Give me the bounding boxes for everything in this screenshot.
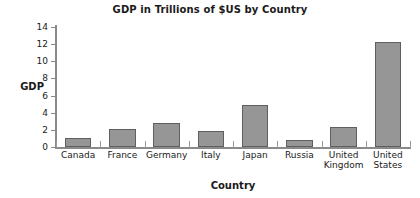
x-axis-tick <box>145 141 146 148</box>
y-axis-tick <box>51 130 57 131</box>
y-axis-tick-label: 2 <box>26 125 48 135</box>
x-axis-tick <box>100 141 101 148</box>
x-axis-tick <box>56 141 57 148</box>
bar-united-states <box>375 42 402 147</box>
y-axis-tick-label: 12 <box>26 39 48 49</box>
x-axis-label: Country <box>55 180 411 191</box>
y-axis-tick-label: 0 <box>26 142 48 152</box>
y-axis-tick-label: 14 <box>26 22 48 32</box>
y-axis-tick <box>51 27 57 28</box>
x-axis-tick-label: United States <box>362 150 414 170</box>
y-axis-tick-label: 6 <box>26 91 48 101</box>
bar-germany <box>153 123 180 147</box>
x-axis-tick <box>189 141 190 148</box>
x-axis-tick <box>410 141 411 148</box>
bar-france <box>109 129 136 147</box>
bar-italy <box>198 131 225 147</box>
chart-title: GDP in Trillions of $US by Country <box>0 4 420 15</box>
y-axis-tick-label: 10 <box>26 56 48 66</box>
bar-canada <box>65 138 92 147</box>
bar-united-kingdom <box>330 127 357 147</box>
y-axis-tick <box>51 96 57 97</box>
y-axis-tick <box>51 113 57 114</box>
x-axis-tick <box>277 141 278 148</box>
x-axis-tick <box>233 141 234 148</box>
y-axis-tick <box>51 78 57 79</box>
x-axis-tick <box>322 141 323 148</box>
x-axis-tick <box>366 141 367 148</box>
y-axis-tick-label: 4 <box>26 108 48 118</box>
y-axis-tick-label: 8 <box>26 73 48 83</box>
y-axis-tick <box>51 61 57 62</box>
bar-japan <box>242 105 269 147</box>
bar-russia <box>286 140 313 147</box>
gdp-bar-chart: GDP in Trillions of $US by Country GDP 0… <box>0 0 420 198</box>
y-axis-tick <box>51 44 57 45</box>
